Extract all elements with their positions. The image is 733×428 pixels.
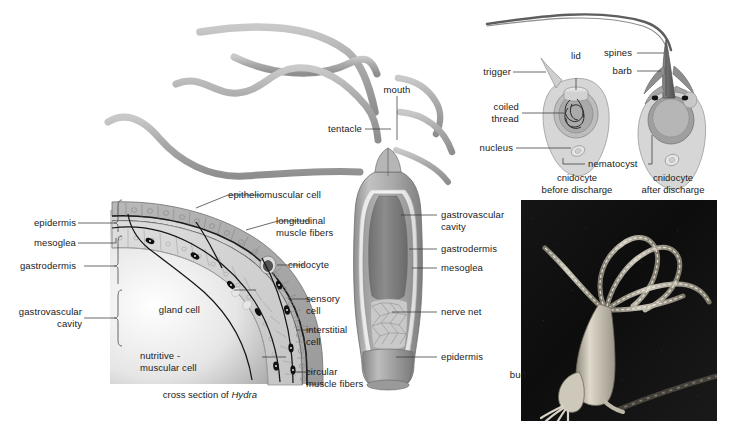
label-circular-muscle-fibers: circular muscle fibers xyxy=(306,366,390,389)
label-mesoglea-body: mesoglea xyxy=(441,262,531,274)
cnidocyte-after-caption: cnidocyte after discharge xyxy=(615,172,731,195)
label-trigger: trigger xyxy=(465,66,511,78)
label-nutritive-muscular-cell: nutritive - muscular cell xyxy=(140,350,236,373)
hydra-photograph xyxy=(521,200,717,421)
label-longitudinal-muscle-fibers: longitudinal muscle fibers xyxy=(276,215,372,238)
cross-section-caption-plain: cross section of xyxy=(163,389,232,400)
label-nerve-net: nerve net xyxy=(441,306,531,318)
label-gland-cell: gland cell xyxy=(136,304,200,316)
label-barb: barb xyxy=(586,65,632,77)
label-mouth: mouth xyxy=(372,84,422,96)
label-tentacle: tentacle xyxy=(296,123,362,135)
hydra-tentacles xyxy=(108,27,452,182)
label-gastrovascular-cavity-body: gastrovascular cavity xyxy=(441,209,531,232)
label-interstitial-cell: interstitial cell xyxy=(306,324,378,347)
label-epidermis-section: epidermis xyxy=(8,217,76,229)
label-sensory-cell: sensory cell xyxy=(306,293,376,316)
label-spines: spines xyxy=(586,47,632,59)
label-gastrodermis-body: gastrodermis xyxy=(441,243,531,255)
label-nucleus: nucleus xyxy=(465,142,513,154)
label-epitheliomuscular-cell: epitheliomuscular cell xyxy=(228,189,368,201)
label-mesoglea-section: mesoglea xyxy=(8,237,76,249)
cross-section-caption: cross section of Hydra xyxy=(128,389,292,401)
label-gastrovascular-cavity-section: gastrovascular cavity xyxy=(0,306,82,329)
label-cnidocyte-section: cnidocyte xyxy=(288,259,368,271)
cross-section-caption-italic: Hydra xyxy=(231,389,257,400)
label-bud: bud xyxy=(492,369,526,381)
label-epidermis-body: epidermis xyxy=(441,351,531,363)
label-coiled-thread: coiled thread xyxy=(465,101,519,124)
label-nematocyst: nematocyst xyxy=(588,158,658,170)
hydra-photograph-content xyxy=(521,200,717,421)
label-gastrodermis-section: gastrodermis xyxy=(2,260,76,272)
hydra-anatomy-figure: tentacle mouth gastrovascular cavity gas… xyxy=(0,0,733,428)
